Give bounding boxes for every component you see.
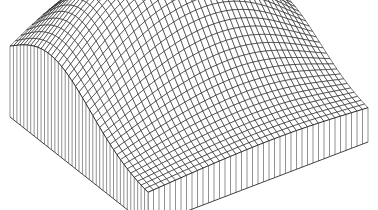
wireframe-surface-plot bbox=[0, 0, 378, 210]
